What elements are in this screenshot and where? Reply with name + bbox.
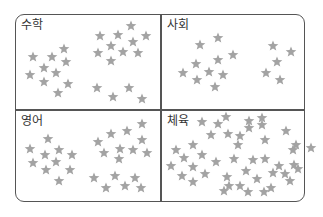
label-math: 수학	[21, 18, 43, 32]
label-social: 사회	[167, 18, 189, 32]
vertical-divider	[160, 14, 162, 202]
label-pe: 체육	[167, 114, 189, 128]
label-english: 영어	[21, 114, 43, 128]
star-icon	[306, 142, 317, 152]
horizontal-divider	[15, 109, 305, 111]
